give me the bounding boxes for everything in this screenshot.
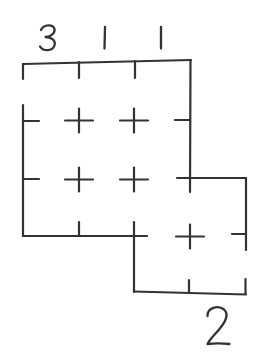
clue-digit-bottom-col4 xyxy=(207,307,229,344)
lattice-cross-mark xyxy=(120,168,148,192)
clue-digit-top-col1 xyxy=(40,25,55,50)
lattice-cross-mark xyxy=(65,109,93,133)
grid-figure-canvas xyxy=(0,0,261,359)
clue-digit-top-col2 xyxy=(105,27,106,49)
lattice-cross-mark xyxy=(65,168,93,192)
edge-top-edge xyxy=(23,60,191,64)
figure xyxy=(0,0,261,359)
lattice-cross-mark xyxy=(120,109,148,133)
edge-right-edge-upper xyxy=(190,60,191,192)
lattice-cross-mark xyxy=(176,225,204,249)
